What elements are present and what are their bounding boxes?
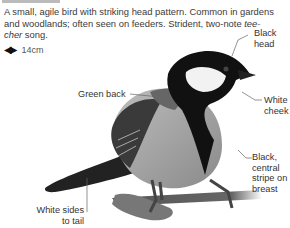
label-tail-sides: White sides to tail xyxy=(22,205,84,226)
label-white-cheek: White cheek xyxy=(264,95,289,116)
label-black-head: Black head xyxy=(254,28,276,49)
label-breast-stripe: Black, central stripe on breast xyxy=(252,152,287,194)
label-green-back: Green back xyxy=(78,89,126,100)
great-tit-illustration xyxy=(0,0,290,228)
